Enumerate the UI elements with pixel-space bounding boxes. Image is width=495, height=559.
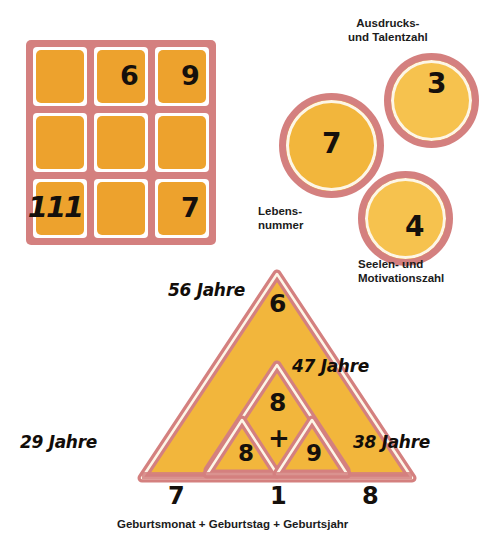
grid-cell-r2c1	[33, 113, 87, 172]
grid-cell-value: 111	[28, 193, 83, 222]
grid-cell-value: 7	[181, 194, 199, 221]
circles-figure: Ausdrucks- und Talentzahl 7 3 4 Lebens- …	[262, 8, 495, 298]
years-bottom-left: 29 Jahre	[20, 432, 97, 452]
years-top-left: 56 Jahre	[168, 280, 245, 300]
base-number-year: 8	[362, 484, 379, 508]
triangle-inner-value: 8	[269, 390, 286, 415]
circle-value-lebensnummer: 7	[322, 130, 341, 158]
grid-cell-r1c1	[33, 47, 87, 106]
triangle-apex-value: 6	[269, 291, 286, 316]
grid-cell-r2c3	[155, 113, 209, 172]
grid-cell-value: 9	[181, 62, 199, 89]
triangle-base-band	[142, 472, 412, 479]
circle-value-ausdruckszahl: 3	[427, 70, 446, 98]
grid-cell-r3c3: 7	[155, 179, 209, 238]
base-number-day: 1	[270, 484, 287, 508]
magic-square-grid: 6 9	[26, 40, 216, 245]
years-bottom-right: 38 Jahre	[353, 432, 430, 452]
grid-cell-r1c3: 9	[155, 47, 209, 106]
label-lebensnummer: Lebens- nummer	[258, 204, 303, 232]
label-ausdrucks-und-talentzahl: Ausdrucks- und Talentzahl	[348, 16, 428, 44]
grid-cell-r3c2	[94, 179, 148, 238]
triangle-plus-sign: +	[268, 425, 290, 451]
diagram-canvas: 6 9	[0, 0, 495, 559]
grid-cell-r2c2	[94, 113, 148, 172]
triangle-left-small-value: 8	[238, 442, 254, 465]
triangle-caption: Geburtsmonat + Geburtstag + Geburtsjahr	[117, 518, 348, 530]
circle-value-seelenzahl: 4	[405, 213, 424, 241]
base-number-month: 7	[168, 484, 185, 508]
grid-cell-r1c2: 6	[94, 47, 148, 106]
triangle-right-small-value: 9	[306, 442, 322, 465]
triangle-figure: 6 8 + 8 9 56 Jahre 47 Jahre 29 Jahre 38 …	[108, 268, 438, 559]
grid-cell-r3c1: 111	[33, 179, 87, 238]
grid-cell-value: 6	[120, 62, 138, 89]
years-mid-right: 47 Jahre	[292, 356, 369, 376]
magic-square-figure: 6 9	[26, 40, 216, 245]
